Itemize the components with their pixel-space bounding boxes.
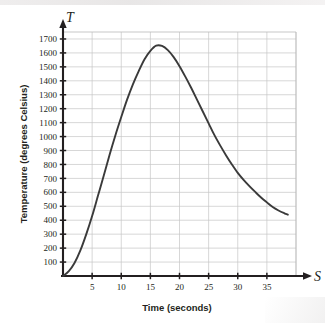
y-tick-label: 1100 — [39, 118, 57, 128]
y-tick-label: 900 — [44, 146, 58, 156]
x-tick-label: 35 — [262, 282, 272, 292]
y-tick-label: 600 — [44, 187, 58, 197]
x-axis-tick-labels: 5101520253035 — [90, 282, 272, 292]
y-axis-title: Temperature (degrees Celsius) — [18, 85, 29, 224]
y-axis-line — [59, 19, 66, 276]
temperature-curve — [63, 45, 288, 276]
y-tick-label: 700 — [44, 174, 58, 184]
x-tick-label: 15 — [146, 282, 156, 292]
y-tick-label: 1700 — [39, 34, 58, 44]
x-tick-label: 30 — [233, 282, 243, 292]
temperature-time-graph: 1002003004005006007008009001000110012001… — [0, 0, 325, 323]
x-axis-line — [61, 272, 312, 279]
y-tick-label: 1500 — [39, 62, 58, 72]
y-axis-tick-labels: 1002003004005006007008009001000110012001… — [39, 34, 58, 267]
y-tick-label: 400 — [44, 215, 58, 225]
y-tick-label: 200 — [44, 243, 58, 253]
y-tick-label: 1200 — [39, 104, 58, 114]
chart-figure: 1002003004005006007008009001000110012001… — [0, 0, 325, 323]
y-axis-variable-label: T — [66, 10, 75, 25]
y-tick-label: 100 — [44, 257, 58, 267]
y-tick-label: 800 — [44, 160, 58, 170]
x-tick-label: 20 — [175, 282, 185, 292]
x-tick-label: 10 — [117, 282, 127, 292]
corner-shadow — [265, 297, 325, 323]
y-tick-label: 300 — [44, 229, 58, 239]
y-tick-label: 1400 — [39, 76, 58, 86]
y-tick-label: 1000 — [39, 132, 58, 142]
y-tick-label: 1600 — [39, 48, 58, 58]
y-tick-label: 1300 — [39, 90, 58, 100]
vertical-gridlines — [92, 32, 296, 276]
y-tick-label: 500 — [44, 201, 58, 211]
x-tick-label: 25 — [204, 282, 214, 292]
x-tick-label: 5 — [90, 282, 95, 292]
x-axis-variable-label: S — [314, 269, 321, 284]
x-axis-title: Time (seconds) — [142, 302, 212, 313]
